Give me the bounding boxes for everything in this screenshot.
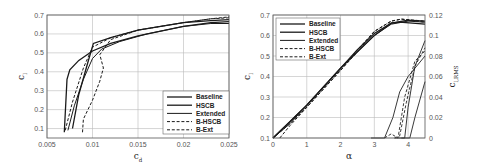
y-right-tick-label: 0.12	[429, 12, 443, 19]
x-tick-label: 4	[406, 141, 410, 148]
y-tick-label: 0.6	[34, 30, 44, 37]
legend-label: B-Ext	[309, 53, 327, 60]
y-tick-label: 0.1	[34, 125, 44, 132]
legend: BaselineHSCBExtendedB-HSCBB-Ext	[163, 91, 229, 134]
legend-label: B-HSCB	[309, 45, 335, 52]
x-tick-label: 0	[271, 141, 275, 148]
y-right-tick-label: 0.1	[429, 32, 439, 39]
y-right-axis-label: cl,RMS	[447, 65, 459, 87]
legend-label: HSCB	[196, 102, 215, 109]
legend-label: B-HSCB	[196, 118, 222, 125]
x-axis-label: cd	[134, 151, 143, 163]
x-axis-label: α	[346, 151, 352, 161]
y-tick-label: 0.2	[34, 106, 44, 113]
y-tick-label: 0.3	[260, 94, 270, 101]
y-axis-label: cl	[242, 73, 254, 80]
legend-label: Baseline	[309, 20, 336, 27]
y-tick-label: 0.6	[260, 32, 270, 39]
x-tick-label: 0.01	[86, 141, 100, 148]
y-tick-label: 0.1	[260, 135, 270, 142]
legend-label: Extended	[309, 37, 338, 44]
y-right-tick-label: 0.08	[429, 53, 443, 60]
y-tick-label: 0.7	[260, 12, 270, 19]
y-right-tick-label: 0.04	[429, 94, 443, 101]
x-tick-label: 0.025	[220, 141, 238, 148]
y-tick-label: 0.4	[34, 68, 44, 75]
legend-label: Extended	[196, 110, 225, 117]
legend-label: Baseline	[196, 93, 223, 100]
y-tick-label: 0.3	[34, 87, 44, 94]
legend: BaselineHSCBExtendedB-HSCBB-Ext	[276, 18, 340, 60]
y-right-tick-label: 0.06	[429, 73, 443, 80]
y-tick-label: 0.7	[34, 12, 44, 19]
x-tick-label: 1	[305, 141, 309, 148]
y-right-tick-label: 0	[429, 135, 433, 142]
x-tick-label: 3	[372, 141, 376, 148]
chart-canvas: 0.0050.010.0150.020.0250.10.20.30.40.50.…	[0, 0, 478, 168]
y-tick-label: 0.2	[260, 114, 270, 121]
x-tick-label: 0.02	[177, 141, 191, 148]
y-tick-label: 0.5	[34, 49, 44, 56]
x-tick-label: 2	[339, 141, 343, 148]
x-tick-label: 0.005	[38, 141, 56, 148]
x-tick-label: 0.015	[129, 141, 147, 148]
cl-vs-cd-chart: 0.0050.010.0150.020.0250.10.20.30.40.50.…	[16, 12, 238, 163]
y-tick-label: 0.5	[260, 53, 270, 60]
legend-label: HSCB	[309, 29, 328, 36]
legend-label: B-Ext	[196, 126, 214, 133]
cl-vs-alpha-chart: 012340.10.20.30.40.50.60.700.020.040.060…	[242, 12, 459, 162]
y-right-tick-label: 0.02	[429, 114, 443, 121]
y-axis-label: cl	[16, 73, 28, 80]
y-tick-label: 0.4	[260, 73, 270, 80]
rms-series-line	[401, 82, 425, 138]
